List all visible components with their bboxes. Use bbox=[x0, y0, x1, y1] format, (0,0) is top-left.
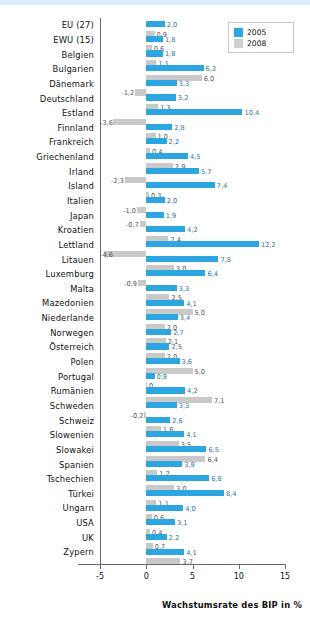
bar-value-label: 4,1 bbox=[186, 431, 197, 440]
category-label: Dänemark bbox=[49, 79, 94, 89]
x-axis-tick-label: 5 bbox=[190, 572, 195, 581]
bar-value-label: 4,2 bbox=[187, 226, 198, 235]
bar-2005[interactable] bbox=[146, 36, 163, 42]
bar-value-label: 6,5 bbox=[208, 446, 219, 455]
category-row: EU (27) bbox=[0, 18, 94, 33]
bar-group: 7,83,0 bbox=[100, 252, 285, 267]
bar-2005[interactable] bbox=[146, 80, 177, 86]
bar-2005[interactable] bbox=[146, 461, 182, 467]
category-row: Niederlande bbox=[0, 311, 94, 326]
bar-2005[interactable] bbox=[146, 505, 183, 511]
x-axis-tick bbox=[193, 564, 194, 569]
category-label: Finnland bbox=[58, 123, 94, 133]
bar-2005[interactable] bbox=[146, 50, 163, 56]
bar-2005[interactable] bbox=[146, 241, 259, 247]
legend-swatch-2008 bbox=[234, 39, 243, 48]
bar-group: 2,20,7 bbox=[100, 531, 285, 546]
x-axis-tick-label: 10 bbox=[234, 572, 244, 581]
bar-2005[interactable] bbox=[146, 373, 154, 379]
bar-2005[interactable] bbox=[146, 329, 171, 335]
bar-2005[interactable] bbox=[146, 549, 184, 555]
category-row: EWU (15) bbox=[0, 33, 94, 48]
bar-2005[interactable] bbox=[146, 109, 242, 115]
category-row: Dänemark bbox=[0, 77, 94, 92]
bar-value-label: 12,2 bbox=[261, 241, 276, 250]
bar-2005[interactable] bbox=[146, 475, 209, 481]
bar-value-label: 4,2 bbox=[187, 387, 198, 396]
legend: 2005 2008 bbox=[228, 22, 294, 53]
bar-group: 3,32,5 bbox=[100, 282, 285, 297]
category-label: Norwegen bbox=[50, 328, 94, 338]
bar-2005[interactable] bbox=[146, 387, 185, 393]
bar-2005[interactable] bbox=[146, 124, 172, 130]
bar-value-label: 5,7 bbox=[201, 168, 212, 177]
category-row: Türkei bbox=[0, 487, 94, 502]
bar-group: 2,52,0 bbox=[100, 340, 285, 355]
bar-2005[interactable] bbox=[146, 402, 177, 408]
bar-2005[interactable] bbox=[146, 446, 206, 452]
bar-2005[interactable] bbox=[146, 226, 185, 232]
category-label: Ungarn bbox=[63, 503, 94, 513]
bar-group: 7,40,3 bbox=[100, 179, 285, 194]
bar-2005[interactable] bbox=[146, 300, 184, 306]
x-axis-tick bbox=[239, 564, 240, 569]
zero-baseline bbox=[100, 18, 101, 564]
bar-2005[interactable] bbox=[146, 182, 214, 188]
bar-2005[interactable] bbox=[146, 534, 166, 540]
bar-value-label: 4,5 bbox=[190, 153, 201, 162]
category-label: Frankreich bbox=[49, 137, 94, 147]
category-row: Frankreich bbox=[0, 135, 94, 150]
x-axis-title: Wachstumsrate des BIP in % bbox=[162, 600, 302, 610]
bar-2005[interactable] bbox=[146, 519, 175, 525]
bar-2005[interactable] bbox=[146, 21, 165, 27]
bar-2005[interactable] bbox=[146, 490, 224, 496]
bar-2005[interactable] bbox=[146, 314, 177, 320]
bar-2005[interactable] bbox=[146, 285, 177, 291]
category-label: Kroatien bbox=[58, 225, 94, 235]
category-row: Österreich bbox=[0, 340, 94, 355]
category-row: Slowenien bbox=[0, 428, 94, 443]
category-row: Ungarn bbox=[0, 501, 94, 516]
bar-2005[interactable] bbox=[146, 270, 205, 276]
bar-2005[interactable] bbox=[146, 138, 166, 144]
category-row: Kroatien bbox=[0, 223, 94, 238]
category-row: Tschechien bbox=[0, 472, 94, 487]
bar-2005[interactable] bbox=[146, 358, 179, 364]
bar-group: 6,26,0 bbox=[100, 62, 285, 77]
bar-2005[interactable] bbox=[146, 65, 203, 71]
bar-2005[interactable] bbox=[146, 212, 164, 218]
bar-group: 4,22,4 bbox=[100, 223, 285, 238]
category-label: Estland bbox=[62, 108, 94, 118]
category-row: Portugal bbox=[0, 369, 94, 384]
legend-label-2005: 2005 bbox=[247, 28, 266, 37]
bar-2005[interactable] bbox=[146, 153, 188, 159]
category-label: Italien bbox=[67, 196, 94, 206]
category-label: Portugal bbox=[58, 372, 94, 382]
category-label: Deutschland bbox=[40, 94, 94, 104]
category-row: Malta bbox=[0, 282, 94, 297]
category-label: Malta bbox=[70, 284, 94, 294]
bar-group: 6,83,0 bbox=[100, 472, 285, 487]
bar-value-label: 7,8 bbox=[220, 256, 231, 265]
bar-group: 6,4-0,9 bbox=[100, 267, 285, 282]
x-axis-tick bbox=[146, 564, 147, 569]
bar-2005[interactable] bbox=[146, 168, 199, 174]
bar-group: 3,65,0 bbox=[100, 355, 285, 370]
bar-value-label: 3,4 bbox=[180, 314, 191, 323]
bar-2005[interactable] bbox=[146, 417, 170, 423]
legend-swatch-2005 bbox=[234, 28, 243, 37]
category-row: Schweden bbox=[0, 399, 94, 414]
category-row: Bulgarien bbox=[0, 62, 94, 77]
bar-value-label: 3,3 bbox=[179, 402, 190, 411]
bar-group: 2,61,6 bbox=[100, 414, 285, 429]
bar-group: 3,91,2 bbox=[100, 457, 285, 472]
bar-value-label: 3,9 bbox=[184, 461, 195, 470]
category-row: Griechenland bbox=[0, 150, 94, 165]
bar-2005[interactable] bbox=[146, 431, 184, 437]
bar-value-label: 1,8 bbox=[165, 36, 176, 45]
category-label: Rumänien bbox=[51, 386, 94, 396]
bar-2005[interactable] bbox=[146, 197, 165, 203]
bar-2005[interactable] bbox=[146, 94, 176, 100]
bar-2005[interactable] bbox=[146, 343, 169, 349]
bar-2005[interactable] bbox=[146, 256, 218, 262]
